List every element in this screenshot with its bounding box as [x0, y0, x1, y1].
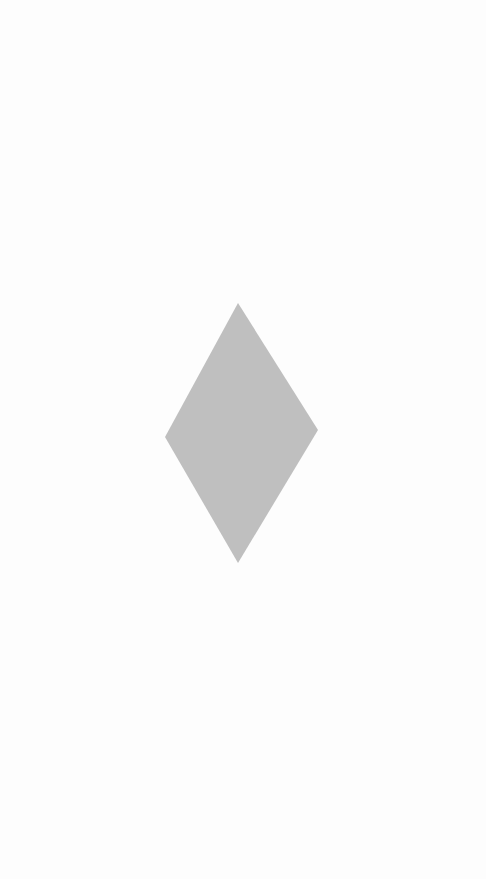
diamond-icon: [165, 303, 318, 563]
diamond-shape: [0, 0, 486, 879]
blank-canvas: [0, 0, 486, 879]
